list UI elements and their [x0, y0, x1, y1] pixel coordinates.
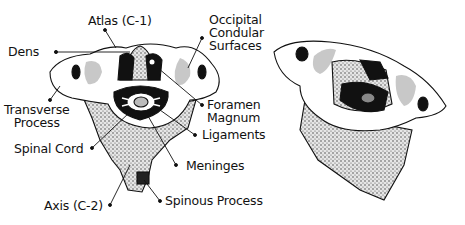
left-vertebra	[49, 29, 220, 207]
label-occipital-condular-surfaces: Occipital Condular Surfaces	[209, 13, 264, 52]
right-vertebra	[274, 41, 446, 200]
label-spinal-cord: Spinal Cord	[14, 142, 83, 155]
label-foramen-magnum: Foramen Magnum	[207, 98, 261, 124]
label-dens: Dens	[8, 45, 39, 58]
label-transverse-process: Transverse Process	[4, 103, 69, 129]
diagram: Atlas (C-1) Dens Occipital Condular Surf…	[0, 0, 465, 225]
label-meninges: Meninges	[186, 159, 244, 172]
label-ligaments: Ligaments	[202, 128, 265, 141]
label-spinous-process: Spinous Process	[165, 194, 263, 207]
label-axis: Axis (C-2)	[44, 199, 103, 212]
label-atlas: Atlas (C-1)	[88, 14, 152, 27]
